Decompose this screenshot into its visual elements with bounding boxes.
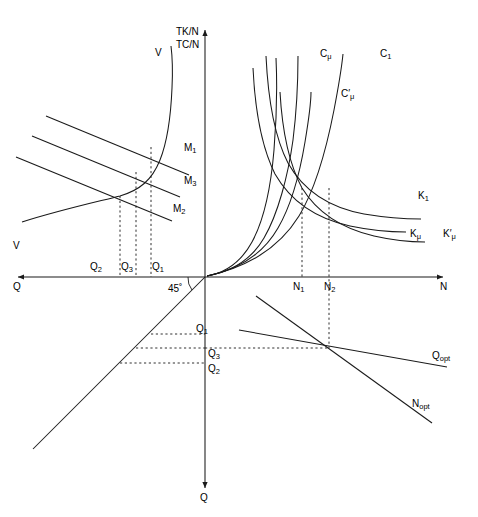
- q1-tick-sub: 1: [160, 265, 164, 274]
- q2-axis-tick-label: Q2: [90, 261, 102, 274]
- vertical-axis-title-line1: TK/N: [176, 26, 199, 37]
- kmu-curve-label: Kμ: [410, 228, 421, 241]
- c-curve-mu: [207, 56, 298, 276]
- horizontal-axis-left-label: Q: [13, 281, 21, 293]
- axis-horizontal: [18, 274, 443, 279]
- m3-line: [32, 136, 180, 197]
- qopt-line: [239, 330, 447, 367]
- c1-label-sub: 1: [387, 52, 391, 61]
- k1-curve-label: K1: [418, 190, 429, 203]
- qopt-line-label: Qopt: [432, 350, 450, 363]
- n2-axis-tick-label: N2: [324, 281, 335, 294]
- q2-tick-text: Q: [90, 261, 98, 272]
- kmu-prime-label-sub: μ: [452, 232, 456, 241]
- q3-proj-text: Q: [208, 348, 216, 359]
- axis-vertical: [202, 30, 207, 488]
- q3-tick-text: Q: [121, 261, 129, 272]
- vertical-axis-title-line2: TC/N: [176, 39, 199, 50]
- n1-axis-tick-label: N1: [293, 281, 304, 294]
- q1-proj-sub: 1: [204, 327, 208, 336]
- horizontal-axis-right-label: N: [440, 281, 447, 293]
- m3-label-sub: 3: [192, 179, 196, 188]
- m1-line: [46, 116, 189, 175]
- nopt-label-sub: opt: [419, 402, 429, 411]
- cmu-prime-curve-label: C′μ: [341, 88, 354, 101]
- c1-curve-label: C1: [380, 48, 391, 61]
- m2-label-sub: 2: [181, 207, 185, 216]
- m1-label: M1: [184, 142, 197, 155]
- angle-arc-45: [188, 277, 192, 290]
- n2-tick-sub: 2: [331, 285, 335, 294]
- k1-label-text: K: [418, 190, 425, 201]
- vertical-axis-bottom-label: Q: [200, 492, 208, 504]
- kmu-curve: [253, 68, 406, 232]
- qopt-label-text: Q: [432, 350, 440, 361]
- m3-label: M3: [184, 175, 197, 188]
- c-curve-left: [207, 58, 277, 276]
- q1-projection-label: Q1: [196, 323, 208, 336]
- v-curve-bottom-label: V: [13, 240, 20, 252]
- q2-projection-label: Q2: [208, 363, 220, 376]
- vertical-axis-title: TK/N TC/N: [176, 26, 199, 51]
- q3-axis-tick-label: Q3: [121, 261, 133, 274]
- q2-proj-text: Q: [208, 363, 216, 374]
- c-curve-c1: [207, 54, 343, 276]
- angle-label-45: 45˚: [168, 283, 182, 295]
- cmu-curve-label: Cμ: [320, 48, 332, 61]
- kmu-prime-curve: [280, 92, 425, 242]
- v-curve: [22, 46, 172, 222]
- figure-container: .crv { fill: none; stroke: #1a1a1a; stro…: [0, 0, 478, 517]
- kmu-prime-curve-label: K′μ: [443, 228, 456, 241]
- m2-line: [16, 157, 172, 221]
- q1-tick-text: Q: [152, 261, 160, 272]
- q3-proj-sub: 3: [216, 352, 220, 361]
- cmu-label-sub: μ: [327, 52, 331, 61]
- q3-tick-sub: 3: [129, 265, 133, 274]
- kmu-prime-label-text: K: [443, 228, 450, 239]
- m1-label-sub: 1: [192, 146, 196, 155]
- q3-projection-label: Q3: [208, 348, 220, 361]
- k1-curve: [266, 56, 421, 219]
- diagram-canvas: .crv { fill: none; stroke: #1a1a1a; stro…: [0, 0, 478, 517]
- m2-label: M2: [173, 203, 186, 216]
- kmu-label-text: K: [410, 228, 417, 239]
- qopt-label-sub: opt: [440, 354, 450, 363]
- kmu-label-sub: μ: [417, 232, 421, 241]
- cmu-prime-label-sub: μ: [350, 92, 354, 101]
- q1-proj-text: Q: [196, 323, 204, 334]
- v-curve-top-label: V: [155, 47, 162, 59]
- n1-tick-sub: 1: [300, 285, 304, 294]
- q1-axis-tick-label: Q1: [152, 261, 164, 274]
- k1-label-sub: 1: [425, 194, 429, 203]
- nopt-line-label: Nopt: [412, 398, 430, 411]
- q2-tick-sub: 2: [98, 265, 102, 274]
- q2-proj-sub: 2: [216, 367, 220, 376]
